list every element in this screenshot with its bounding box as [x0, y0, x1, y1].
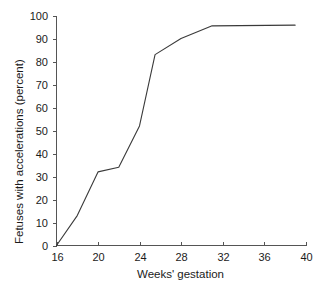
x-axis-title: Weeks' gestation [56, 268, 305, 280]
x-tick-label: 40 [292, 252, 322, 263]
x-tick-label: 24 [126, 252, 156, 263]
x-tick-label: 20 [84, 252, 114, 263]
y-tick-label: 90 [18, 34, 48, 45]
x-tick-label: 36 [250, 252, 280, 263]
x-tick-label: 32 [209, 252, 239, 263]
x-tick-label: 16 [43, 252, 73, 263]
line-chart-plot [0, 0, 329, 291]
x-tick-label: 28 [167, 252, 197, 263]
axes [57, 16, 306, 246]
y-axis-title: Fetuses with accelerations (percent) [13, 59, 25, 244]
data-series-line [57, 25, 296, 245]
chart-figure: 0102030405060708090100 16202428323640 We… [0, 0, 329, 291]
y-tick-label: 100 [18, 11, 48, 22]
